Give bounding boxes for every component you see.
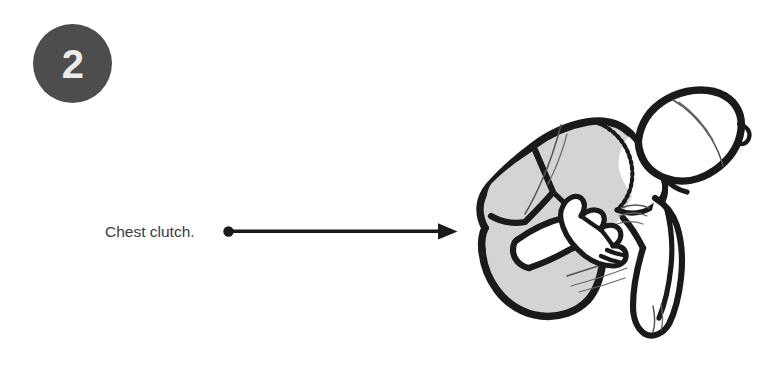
head — [638, 90, 749, 192]
callout-leader-arrow-icon — [220, 215, 470, 249]
hanging-arm — [623, 198, 682, 336]
figure-canvas: 2 Chest clutch. .ink { fill: none; strok… — [0, 0, 782, 367]
callout-label: Chest clutch. — [105, 222, 195, 242]
step-number-label: 2 — [62, 44, 84, 84]
step-number-badge: 2 — [33, 24, 112, 103]
person-clutching-chest-illustration: .ink { fill: none; stroke: #1a1a1a; stro… — [455, 78, 755, 343]
